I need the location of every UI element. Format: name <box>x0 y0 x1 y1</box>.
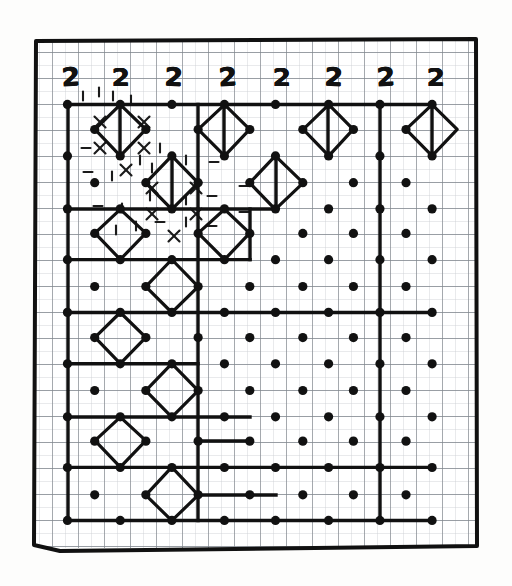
lattice-dot <box>427 204 436 213</box>
lattice-dot <box>401 282 410 291</box>
lattice-dot <box>245 178 254 187</box>
lattice-dot <box>116 255 125 264</box>
lattice-dot <box>167 308 176 317</box>
lattice-dot <box>245 125 254 134</box>
lattice-dot <box>63 463 72 472</box>
lattice-dot <box>375 463 384 472</box>
lattice-dot <box>375 308 384 317</box>
lattice-dot <box>375 359 384 368</box>
lattice-dot <box>298 386 307 395</box>
lattice-dot <box>271 463 280 472</box>
lattice-dot <box>375 255 384 264</box>
lattice-dot <box>375 100 384 109</box>
lattice-dot <box>349 178 358 187</box>
lattice-dot <box>271 151 280 160</box>
lattice-dot <box>141 229 150 238</box>
lattice-dot <box>427 100 436 109</box>
lattice-dot <box>324 308 333 317</box>
lattice-dot <box>141 333 150 342</box>
lattice-dot <box>324 359 333 368</box>
lattice-dot <box>90 125 99 134</box>
puzzle-canvas <box>0 0 512 586</box>
lattice-dot <box>90 282 99 291</box>
lattice-dot <box>375 204 384 213</box>
lattice-dot <box>349 125 358 134</box>
lattice-dot <box>194 333 203 342</box>
lattice-dot <box>349 386 358 395</box>
lattice-dot <box>349 229 358 238</box>
lattice-dot <box>245 386 254 395</box>
lattice-dot <box>220 255 229 264</box>
lattice-dot <box>324 516 333 525</box>
lattice-dot <box>194 490 203 499</box>
lattice-dot <box>349 490 358 499</box>
lattice-dot <box>245 333 254 342</box>
lattice-dot <box>375 151 384 160</box>
lattice-dot <box>220 100 229 109</box>
lattice-dot <box>298 437 307 446</box>
lattice-dot <box>194 229 203 238</box>
lattice-dot <box>90 386 99 395</box>
lattice-dot <box>245 229 254 238</box>
lattice-dot <box>194 282 203 291</box>
lattice-dot <box>63 204 72 213</box>
lattice-dot <box>194 178 203 187</box>
lattice-dot <box>116 100 125 109</box>
lattice-dot <box>167 463 176 472</box>
lattice-dot <box>194 125 203 134</box>
graph-paper-grid <box>35 40 475 548</box>
lattice-dot <box>63 151 72 160</box>
lattice-dot <box>375 516 384 525</box>
lattice-dot <box>141 282 150 291</box>
lattice-dot <box>271 100 280 109</box>
lattice-dot <box>220 412 229 421</box>
lattice-dot <box>401 386 410 395</box>
lattice-dot <box>427 308 436 317</box>
lattice-dot <box>271 412 280 421</box>
lattice-dot <box>220 516 229 525</box>
lattice-dot <box>427 463 436 472</box>
lattice-dot <box>116 204 125 213</box>
lattice-dot <box>427 412 436 421</box>
lattice-dot <box>167 204 176 213</box>
lattice-dot <box>116 412 125 421</box>
lattice-dot <box>220 204 229 213</box>
lattice-dot <box>271 204 280 213</box>
lattice-dot <box>245 282 254 291</box>
lattice-dot <box>63 308 72 317</box>
paper-sheet: 22222222 <box>0 0 512 586</box>
lattice-dot <box>427 516 436 525</box>
lattice-dot <box>298 282 307 291</box>
lattice-dot <box>141 386 150 395</box>
lattice-dot <box>271 308 280 317</box>
lattice-dot <box>194 437 203 446</box>
lattice-dot <box>167 516 176 525</box>
lattice-dot <box>271 359 280 368</box>
lattice-dot <box>324 100 333 109</box>
lattice-dot <box>324 255 333 264</box>
lattice-dot <box>271 516 280 525</box>
lattice-dot <box>324 204 333 213</box>
lattice-dot <box>116 463 125 472</box>
lattice-dot <box>167 359 176 368</box>
lattice-dot <box>401 229 410 238</box>
lattice-dot <box>167 151 176 160</box>
lattice-dot <box>245 490 254 499</box>
lattice-dot <box>220 151 229 160</box>
lattice-dot <box>427 151 436 160</box>
lattice-dot <box>63 255 72 264</box>
lattice-dot <box>324 463 333 472</box>
lattice-dot <box>116 516 125 525</box>
lattice-dot <box>401 490 410 499</box>
lattice-dot <box>349 437 358 446</box>
lattice-dot <box>245 437 254 446</box>
lattice-dot <box>141 490 150 499</box>
lattice-dot <box>194 386 203 395</box>
lattice-dot <box>63 359 72 368</box>
lattice-dot <box>427 255 436 264</box>
lattice-dot <box>141 125 150 134</box>
lattice-dot <box>116 359 125 368</box>
lattice-dot <box>220 359 229 368</box>
lattice-dot <box>298 229 307 238</box>
lattice-dot <box>90 490 99 499</box>
